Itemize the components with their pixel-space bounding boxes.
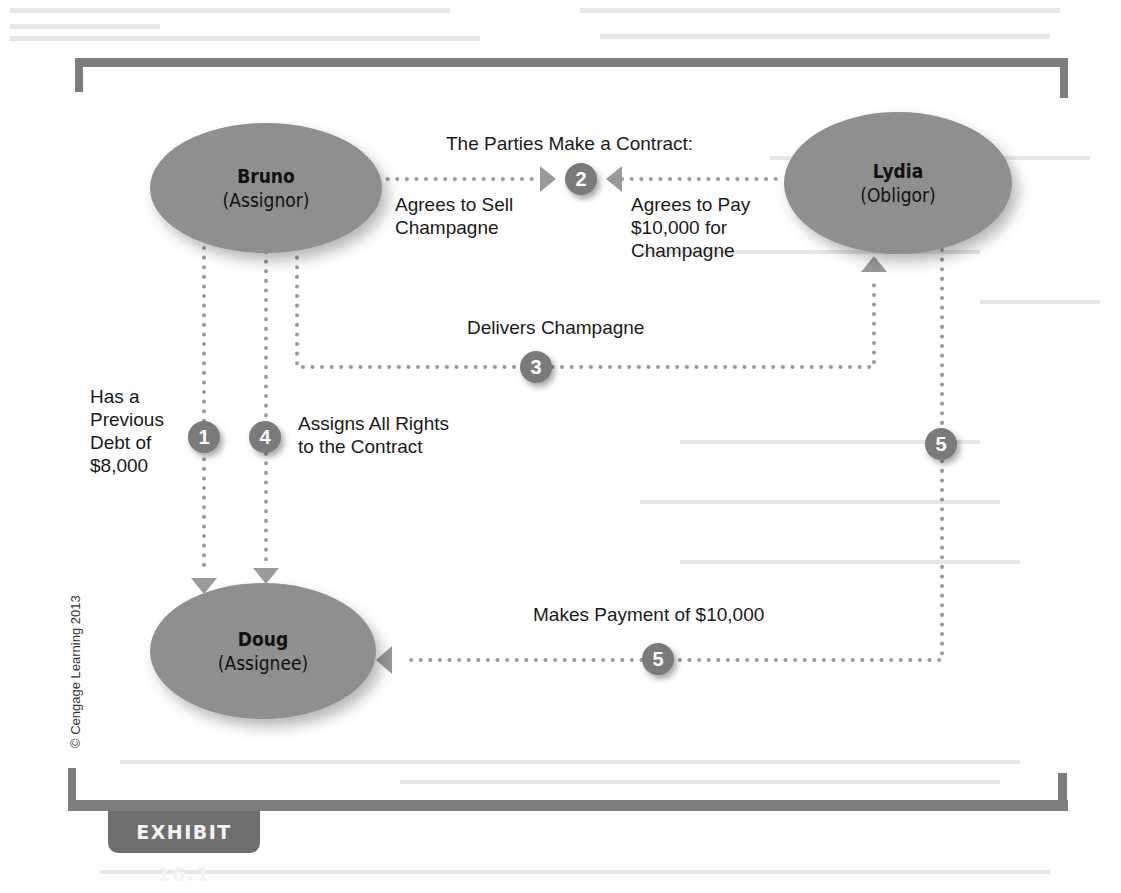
step3-label: Delivers Champagne [467, 316, 644, 339]
party-name: Bruno [237, 164, 295, 188]
delivery-line [297, 248, 874, 367]
party-role: (Assignor) [223, 188, 310, 212]
step-3-badge: 3 [520, 351, 552, 383]
step2-right-label: Agrees to Pay $10,000 for Champagne [631, 193, 750, 262]
step-5-badge: 5 [642, 643, 674, 675]
step1-label: Has a Previous Debt of $8,000 [90, 385, 164, 477]
arrow-down-icon [253, 568, 279, 584]
party-name: Doug [238, 627, 288, 651]
step-1-badge: 1 [188, 421, 220, 453]
party-name: Lydia [873, 159, 923, 183]
party-role: (Assignee) [218, 651, 308, 675]
step-5-vertical-badge: 5 [925, 428, 957, 460]
copyright-notice: © Cengage Learning 2013 [68, 595, 83, 748]
contract-title: The Parties Make a Contract: [446, 132, 693, 155]
party-doug: Doug (Assignee) [150, 583, 376, 719]
step-2-badge: 2 [565, 163, 597, 195]
step-4-badge: 4 [249, 421, 281, 453]
step5-label: Makes Payment of $10,000 [533, 603, 764, 626]
payment-line [402, 250, 942, 660]
arrow-up-icon [861, 256, 887, 272]
arrow-left-icon [606, 166, 622, 192]
step4-label: Assigns All Rights to the Contract [298, 412, 449, 458]
party-bruno: Bruno (Assignor) [150, 123, 382, 253]
step2-left-label: Agrees to Sell Champagne [395, 193, 513, 239]
arrow-left-icon [376, 646, 392, 674]
arrow-right-icon [540, 166, 556, 192]
party-role: (Obligor) [860, 183, 935, 207]
party-lydia: Lydia (Obligor) [784, 112, 1012, 254]
